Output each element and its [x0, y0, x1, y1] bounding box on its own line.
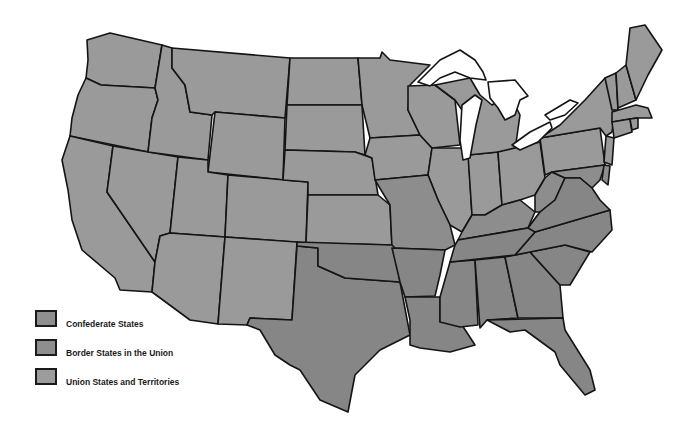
- state-indiana: [468, 152, 502, 215]
- border-swatch: [35, 339, 57, 356]
- state-arizona: [152, 233, 225, 324]
- state-mississippi: [440, 260, 478, 327]
- state-wyoming: [208, 112, 285, 180]
- state-new-jersey: [604, 136, 614, 165]
- state-north-dakota: [287, 58, 362, 105]
- state-florida: [487, 318, 595, 395]
- state-washington: [86, 33, 162, 88]
- state-delaware: [602, 165, 610, 185]
- state-colorado: [225, 175, 308, 243]
- state-kansas: [306, 195, 392, 245]
- state-south-dakota: [285, 105, 365, 155]
- legend-label: Border States in the Union: [66, 348, 173, 358]
- us-civil-war-map: [0, 0, 692, 437]
- union-swatch: [35, 368, 57, 385]
- legend-label: Union States and Territories: [66, 377, 179, 387]
- state-iowa: [365, 135, 432, 180]
- lake-superior: [418, 50, 486, 86]
- confederate-swatch: [35, 310, 57, 327]
- state-connecticut: [612, 119, 632, 138]
- state-montana: [172, 48, 290, 118]
- state-new-mexico: [218, 237, 297, 325]
- legend-label: Confederate States: [66, 319, 143, 329]
- state-rhode-island: [630, 118, 638, 130]
